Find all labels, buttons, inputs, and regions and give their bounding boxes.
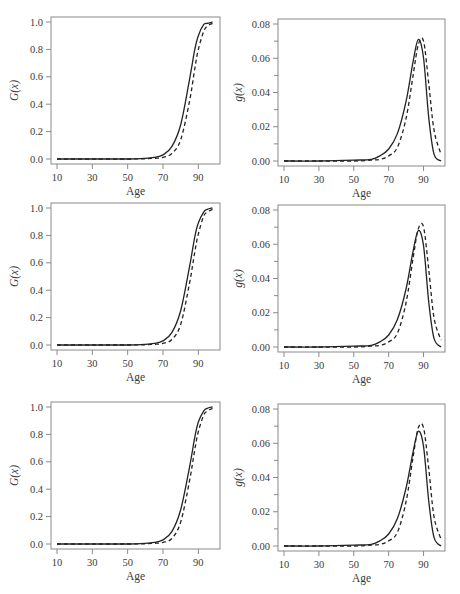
x-tick-label: 90: [193, 358, 204, 369]
y-tick-label: 0.2: [30, 511, 43, 522]
y-tick-label: 0.2: [30, 312, 43, 323]
dashed-series-line: [284, 223, 441, 347]
x-tick-label: 50: [349, 174, 360, 185]
plot-svg: 1030507090Age0.00.20.40.60.81.0G(x): [0, 385, 230, 594]
y-tick-label: 0.2: [30, 126, 43, 137]
x-tick-label: 10: [279, 559, 290, 570]
y-tick-label: 0.06: [252, 239, 270, 250]
x-tick-label: 90: [193, 557, 204, 568]
x-tick-label: 30: [314, 360, 325, 371]
y-tick-label: 0.00: [252, 342, 270, 353]
x-tick-label: 10: [52, 358, 63, 369]
x-tick-label: 50: [122, 358, 133, 369]
x-tick-label: 50: [349, 559, 360, 570]
y-tick-label: 0.8: [30, 44, 43, 55]
x-tick-label: 30: [87, 358, 98, 369]
y-tick-label: 0.08: [252, 19, 270, 30]
y-tick-label: 0.0: [30, 539, 43, 550]
x-tick-label: 90: [193, 172, 204, 183]
y-axis-title: g(x): [232, 269, 245, 288]
solid-series-line: [57, 22, 212, 159]
y-tick-label: 0.8: [30, 230, 43, 241]
y-tick-label: 0.4: [30, 285, 44, 296]
plot-frame: [278, 205, 445, 352]
solid-series-line: [57, 407, 212, 544]
x-tick-label: 70: [383, 360, 394, 371]
y-tick-label: 0.0: [30, 154, 43, 165]
x-tick-label: 30: [314, 174, 325, 185]
dashed-series-line: [284, 423, 441, 546]
x-tick-label: 10: [279, 174, 290, 185]
x-tick-label: 90: [418, 174, 429, 185]
y-tick-label: 1.0: [30, 402, 43, 413]
y-tick-label: 0.02: [252, 307, 270, 318]
chart-panel-cdf-3: 1030507090Age0.00.20.40.60.81.0G(x): [0, 385, 230, 594]
y-tick-label: 0.6: [30, 257, 43, 268]
plot-frame: [51, 17, 220, 164]
y-tick-label: 0.08: [252, 404, 270, 415]
x-tick-label: 90: [418, 360, 429, 371]
y-tick-label: 0.4: [30, 99, 44, 110]
x-tick-label: 30: [87, 557, 98, 568]
plot-frame: [278, 404, 445, 551]
y-tick-label: 0.00: [252, 156, 270, 167]
plot-frame: [51, 203, 220, 350]
x-tick-label: 10: [279, 360, 290, 371]
y-axis-title: g(x): [232, 468, 245, 487]
x-tick-label: 10: [52, 557, 63, 568]
y-axis-title: G(x): [8, 80, 21, 101]
y-tick-label: 0.06: [252, 438, 270, 449]
dashed-series-line: [57, 209, 212, 345]
x-tick-label: 70: [158, 557, 169, 568]
y-tick-label: 0.04: [252, 273, 271, 284]
y-axis-title: g(x): [232, 83, 245, 102]
x-tick-label: 50: [122, 172, 133, 183]
solid-series-line: [284, 39, 441, 161]
x-axis-title: Age: [126, 371, 145, 384]
x-tick-label: 50: [122, 557, 133, 568]
y-tick-label: 0.6: [30, 456, 43, 467]
chart-panel-pdf-2: 1030507090Age0.000.020.040.060.08g(x): [230, 186, 460, 383]
y-axis-title: G(x): [8, 465, 21, 486]
solid-series-line: [284, 431, 441, 546]
plot-svg: 1030507090Age0.000.020.040.060.08g(x): [230, 385, 460, 594]
chart-panel-cdf-2: 1030507090Age0.00.20.40.60.81.0G(x): [0, 186, 230, 383]
solid-series-line: [284, 230, 441, 347]
plot-svg: 1030507090Age0.00.20.40.60.81.0G(x): [0, 186, 230, 383]
y-tick-label: 0.04: [252, 472, 271, 483]
plot-svg: 1030507090Age0.000.020.040.060.08g(x): [230, 186, 460, 383]
x-tick-label: 70: [383, 559, 394, 570]
x-tick-label: 70: [383, 174, 394, 185]
plot-svg: 1030507090Age0.000.020.040.060.08g(x): [230, 0, 460, 197]
chart-panel-cdf-1: 1030507090Age0.00.20.40.60.81.0G(x): [0, 0, 230, 197]
y-tick-label: 0.6: [30, 71, 43, 82]
x-tick-label: 30: [314, 559, 325, 570]
x-tick-label: 70: [158, 172, 169, 183]
y-tick-label: 1.0: [30, 17, 43, 28]
dashed-series-line: [57, 23, 212, 159]
x-axis-title: Age: [126, 570, 145, 583]
chart-panel-pdf-3: 1030507090Age0.000.020.040.060.08g(x): [230, 385, 460, 594]
y-tick-label: 0.08: [252, 205, 270, 216]
y-tick-label: 0.0: [30, 340, 43, 351]
y-tick-label: 0.06: [252, 53, 270, 64]
y-tick-label: 1.0: [30, 203, 43, 214]
x-tick-label: 90: [418, 559, 429, 570]
dashed-series-line: [284, 38, 441, 161]
dashed-series-line: [57, 408, 212, 544]
y-tick-label: 0.4: [30, 484, 44, 495]
y-tick-label: 0.8: [30, 429, 43, 440]
plot-svg: 1030507090Age0.00.20.40.60.81.0G(x): [0, 0, 230, 197]
x-tick-label: 30: [87, 172, 98, 183]
y-axis-title: G(x): [8, 266, 21, 287]
y-tick-label: 0.00: [252, 541, 270, 552]
chart-panel-pdf-1: 1030507090Age0.000.020.040.060.08g(x): [230, 0, 460, 197]
y-tick-label: 0.04: [252, 87, 271, 98]
x-tick-label: 10: [52, 172, 63, 183]
solid-series-line: [57, 208, 212, 345]
y-tick-label: 0.02: [252, 506, 270, 517]
x-tick-label: 50: [349, 360, 360, 371]
y-tick-label: 0.02: [252, 121, 270, 132]
x-axis-title: Age: [352, 572, 371, 585]
x-tick-label: 70: [158, 358, 169, 369]
